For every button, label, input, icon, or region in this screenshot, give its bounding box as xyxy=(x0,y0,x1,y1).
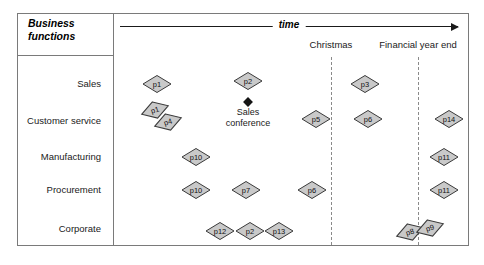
sales-conference-label-line2: conference xyxy=(226,118,271,129)
process-node-p5[interactable]: p5 xyxy=(301,110,331,129)
process-node-p10b[interactable]: p10 xyxy=(181,181,211,200)
process-node-p11a[interactable]: p11 xyxy=(429,148,459,167)
time-axis-label: time xyxy=(273,18,306,32)
process-node-p11b[interactable]: p11 xyxy=(429,181,459,200)
process-node-p7[interactable]: p7 xyxy=(231,181,261,200)
diamond-icon: p14 xyxy=(434,110,464,129)
diamond-icon: p3 xyxy=(350,75,380,94)
sales-conference-label-line1: Sales xyxy=(226,107,271,118)
sales-conference-label: Sales conference xyxy=(226,107,271,128)
time-axis: time xyxy=(120,26,458,27)
row-label-corporate: Corporate xyxy=(0,223,108,234)
diagram-canvas: Business functions time SalesCustomer se… xyxy=(0,0,484,265)
process-node-p13[interactable]: p13 xyxy=(264,222,294,241)
diamond-icon: p2 xyxy=(233,72,263,91)
diamond-icon: p10 xyxy=(181,148,211,167)
process-node-p12[interactable]: p12 xyxy=(205,222,235,241)
page-title: Business functions xyxy=(28,17,112,43)
row-label-sales: Sales xyxy=(0,78,108,89)
row-label-customer-service: Customer service xyxy=(0,115,108,126)
event-label-financial-year-end: Financial year end xyxy=(379,39,457,50)
diamond-icon: p1 xyxy=(142,75,172,94)
event-line-christmas xyxy=(331,57,332,245)
title-separator xyxy=(17,55,113,56)
process-node-p9[interactable]: p9 xyxy=(415,219,445,238)
diamond-icon: p10 xyxy=(181,181,211,200)
diamond-icon: p11 xyxy=(429,148,459,167)
process-node-p10a[interactable]: p10 xyxy=(181,148,211,167)
process-node-p6a[interactable]: p6 xyxy=(353,110,383,129)
diamond-icon: p7 xyxy=(231,181,261,200)
event-label-christmas: Christmas xyxy=(310,39,353,50)
process-node-p6b[interactable]: p6 xyxy=(297,181,327,200)
diamond-icon: p12 xyxy=(205,222,235,241)
process-node-p2b[interactable]: p2 xyxy=(235,222,265,241)
process-node-p1[interactable]: p1 xyxy=(142,75,172,94)
diamond-icon: p5 xyxy=(301,110,331,129)
row-label-procurement: Procurement xyxy=(0,184,108,195)
diamond-icon: p2 xyxy=(235,222,265,241)
process-node-p2a[interactable]: p2 xyxy=(233,72,263,91)
diamond-icon: p6 xyxy=(353,110,383,129)
time-arrow-icon xyxy=(451,23,459,31)
label-column-divider xyxy=(113,13,114,246)
row-label-manufacturing: Manufacturing xyxy=(0,151,108,162)
event-line-financial-year-end xyxy=(418,57,419,245)
process-node-p14[interactable]: p14 xyxy=(434,110,464,129)
diamond-icon: p11 xyxy=(429,181,459,200)
process-node-p3[interactable]: p3 xyxy=(350,75,380,94)
diamond-icon: p13 xyxy=(264,222,294,241)
process-node-p4[interactable]: p4 xyxy=(153,113,183,132)
diamond-icon: p6 xyxy=(297,181,327,200)
